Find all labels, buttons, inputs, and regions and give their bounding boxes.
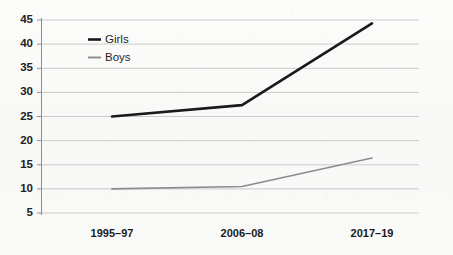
chart-legend: Girls Boys (88, 33, 131, 63)
y-tick-label-30: 30 (20, 85, 33, 97)
y-axis (37, 18, 42, 215)
girls-line (112, 23, 372, 116)
legend-label-girls: Girls (105, 33, 129, 45)
y-tick-label-15: 15 (20, 158, 33, 170)
y-tick-label-10: 10 (20, 182, 33, 194)
x-tick-label-0: 1995–97 (91, 227, 134, 239)
x-axis-labels: 1995–97 2006–08 2017–19 (91, 227, 394, 239)
boys-line (112, 158, 372, 189)
gridlines-group (41, 20, 419, 213)
series-boys (112, 158, 372, 189)
y-tick-label-35: 35 (20, 61, 33, 73)
y-tick-label-20: 20 (20, 134, 33, 146)
y-axis-labels: 45 40 35 30 25 20 15 10 5 (20, 13, 33, 218)
y-tick-label-45: 45 (20, 13, 33, 25)
y-tick-label-5: 5 (27, 206, 34, 218)
chart-svg: 45 40 35 30 25 20 15 10 5 1995–97 2006–0… (0, 0, 453, 255)
line-chart: 45 40 35 30 25 20 15 10 5 1995–97 2006–0… (0, 0, 453, 255)
x-tick-label-1: 2006–08 (221, 227, 264, 239)
y-tick-label-25: 25 (20, 110, 33, 122)
y-tick-label-40: 40 (20, 37, 33, 49)
series-girls (112, 23, 372, 116)
x-tick-label-2: 2017–19 (351, 227, 394, 239)
legend-label-boys: Boys (105, 51, 131, 63)
